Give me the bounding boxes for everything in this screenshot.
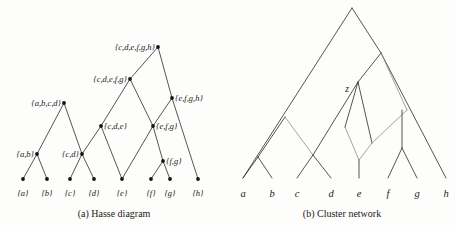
panel-hasse-diagram: {c,d,e,f,g,h}{c,d,e,f,g}{a,b,c,d}{e,f,g,… [0, 0, 228, 225]
hasse-node-label-c: {c} [65, 188, 76, 198]
hasse-edge-efgh-h [172, 98, 198, 179]
cluster-leaf-label-d: d [328, 188, 334, 199]
cluster-leaf-label-b: b [269, 188, 274, 199]
hasse-node-label-cd: {c,d} [62, 149, 80, 159]
edge-ab-to-b [258, 157, 272, 178]
hasse-edge-abcd-ab [37, 103, 64, 154]
hasse-node-g [168, 177, 172, 181]
hasse-edge-cd-d [82, 154, 94, 179]
cluster-leaf-label-f: f [387, 188, 392, 199]
hasse-node-ab [35, 152, 39, 156]
hasse-node-cdefg [128, 77, 132, 81]
hasse-node-label-fg: {f,g} [166, 156, 182, 166]
edge-root-to-efgh [352, 8, 381, 53]
hasse-node-efgh [170, 96, 174, 100]
cluster-network-svg: abcdefgh z (b) Cluster network [228, 0, 456, 225]
edge-cd-to-d [313, 155, 331, 178]
hasse-node-label-g: {g} [164, 188, 176, 198]
figure-container: {c,d,e,f,g,h}{c,d,e,f,g}{a,b,c,d}{e,f,g,… [0, 0, 456, 225]
hasse-node-label-h: {h} [192, 188, 204, 198]
hasse-node-label-cdefg: {c,d,e,f,g} [93, 74, 127, 84]
hasse-node-b [45, 177, 49, 181]
hasse-node-label-d: {d} [88, 188, 100, 198]
hasse-edge-ab-b [37, 154, 47, 179]
hasse-node-d [92, 177, 96, 181]
hasse-node-label-e: {e} [117, 188, 128, 198]
hasse-node-label-cde: {c,d,e} [104, 121, 127, 131]
edge-efgh-to-fgroot [381, 53, 407, 110]
hasse-edge-fg-f [151, 161, 163, 179]
edge-fg-to-g [402, 148, 417, 178]
hasse-node-efg [151, 124, 155, 128]
hasse-edge-cdefg-efg [130, 79, 153, 126]
cluster-leaf-label-g: g [414, 188, 419, 199]
hasse-node-abcd [62, 101, 66, 105]
hasse-edge-top-efgh [158, 47, 172, 98]
hasse-node-label-ab: {a,b} [17, 149, 35, 159]
internal-node-label-z: z [344, 84, 349, 94]
hasse-edge-abcd-cd [64, 103, 82, 154]
edge-cd-to-c [297, 155, 313, 178]
hasse-node-cd [80, 152, 84, 156]
cluster-leaf-label-c: c [295, 188, 300, 199]
hasse-node-e [120, 177, 124, 181]
hasse-node-label-efgh: {e,f,g,h} [175, 93, 203, 103]
edge-ab-to-a [243, 157, 258, 178]
hasse-node-h [196, 177, 200, 181]
hasse-node-top [156, 45, 160, 49]
cluster-leaf-label-e: e [357, 188, 362, 199]
hasse-node-label-f: {f} [146, 188, 156, 198]
edge-root-to-a-side [243, 8, 352, 178]
edge-z-to-reticulation [358, 82, 372, 143]
hasse-node-cde [99, 124, 103, 128]
edge-ecross-to-e-join [345, 127, 359, 160]
hasse-node-label-b: {b} [41, 188, 53, 198]
edge-abcd-to-ab [258, 117, 285, 157]
hasse-node-f [149, 177, 153, 181]
edge-fg-to-f [388, 148, 402, 178]
hasse-edge-cde-cd [82, 126, 101, 154]
hasse-node-label-abcd: {a,b,c,d} [31, 98, 61, 108]
hasse-node-c [68, 177, 72, 181]
edge-efgh-to-z [358, 53, 381, 82]
hasse-node-a [21, 177, 25, 181]
hasse-edge-efg-fg [153, 126, 163, 161]
panel-a-caption: (a) Hasse diagram [78, 208, 151, 220]
hasse-node-label-efg: {e,f,g} [156, 121, 178, 131]
hasse-edge-efg-e [122, 126, 153, 179]
cluster-leaf-label-a: a [240, 188, 245, 199]
panel-b-caption: (b) Cluster network [303, 208, 381, 220]
cluster-network-leaf-label-group: abcdefgh [240, 188, 448, 199]
hasse-node-label-a: {a} [17, 188, 29, 198]
edge-z-to-cd [313, 82, 358, 155]
edge-efgh-to-h [381, 53, 446, 178]
hasse-label-group: {c,d,e,f,g,h}{c,d,e,f,g}{a,b,c,d}{e,f,g,… [17, 42, 205, 198]
hasse-node-fg [161, 159, 165, 163]
hasse-node-label-top: {c,d,e,f,g,h} [115, 42, 156, 52]
edge-reticulation-to-e-join [359, 143, 372, 160]
hasse-diagram-svg: {c,d,e,f,g,h}{c,d,e,f,g}{a,b,c,d}{e,f,g,… [0, 0, 228, 225]
panel-cluster-network: abcdefgh z (b) Cluster network [228, 0, 456, 225]
edge-abcd-to-cd [285, 117, 313, 155]
hasse-edge-cde-e [101, 126, 122, 179]
cluster-leaf-label-h: h [443, 188, 448, 199]
hasse-edge-cdefg-cde [101, 79, 130, 126]
